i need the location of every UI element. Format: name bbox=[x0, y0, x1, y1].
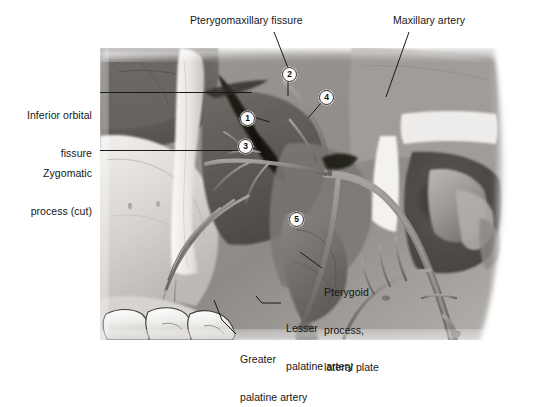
label-zygomatic-process-cut: Zygomatic process (cut) bbox=[0, 142, 92, 242]
marker-4: 4 bbox=[319, 90, 334, 105]
marker-1: 1 bbox=[240, 111, 255, 126]
marker-2: 2 bbox=[282, 67, 297, 82]
label-maxillary-artery: Maxillary artery bbox=[393, 14, 465, 27]
label-line: palatine artery bbox=[240, 391, 307, 404]
label-pterygomaxillary-fissure: Pterygomaxillary fissure bbox=[190, 14, 303, 27]
label-greater-palatine-artery: Greater palatine artery bbox=[240, 328, 307, 407]
marker-3: 3 bbox=[238, 139, 253, 154]
label-line: process (cut) bbox=[0, 205, 92, 218]
label-line: Greater bbox=[240, 353, 307, 366]
label-line: Inferior orbital bbox=[0, 109, 92, 122]
marker-5: 5 bbox=[289, 212, 304, 227]
label-line: Zygomatic bbox=[0, 167, 92, 180]
